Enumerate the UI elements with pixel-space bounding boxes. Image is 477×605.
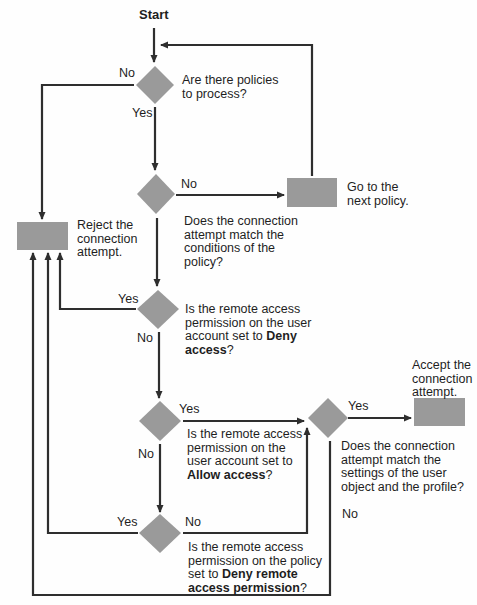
d4-yes-label: Yes bbox=[179, 403, 199, 417]
d5-question: Does the connection attempt match the se… bbox=[341, 440, 464, 494]
reject-label: Reject the connection attempt. bbox=[77, 219, 137, 260]
d1-yes-label: Yes bbox=[132, 107, 152, 121]
d1-no-label: No bbox=[119, 67, 135, 81]
start-label: Start bbox=[139, 8, 169, 22]
d6-no-label: No bbox=[185, 516, 201, 530]
decision-diamond-deny-policy bbox=[139, 514, 181, 553]
d5-no-label: No bbox=[342, 508, 358, 522]
action-box-reject bbox=[17, 222, 68, 250]
action-box-accept bbox=[414, 398, 465, 426]
d2-question: Does the connection attempt match the co… bbox=[184, 215, 298, 269]
d4-no-label: No bbox=[138, 448, 154, 462]
decision-diamond-deny-user bbox=[137, 290, 179, 329]
accept-label: Accept the connection attempt. bbox=[412, 359, 472, 400]
d5-yes-label: Yes bbox=[348, 400, 368, 414]
d6-yes-label: Yes bbox=[117, 516, 137, 530]
d3-no-label: No bbox=[137, 332, 153, 346]
d6-question: Is the remote access permission on the p… bbox=[188, 541, 322, 595]
flowchart-canvas: Start No Yes Are there policies to proce… bbox=[0, 0, 477, 605]
d1-question: Are there policies to process? bbox=[182, 74, 279, 101]
d4-question: Is the remote access permission on the u… bbox=[187, 428, 302, 482]
d3-question: Is the remote access permission on the u… bbox=[185, 303, 311, 357]
next-policy-label: Go to the next policy. bbox=[347, 181, 409, 208]
decision-diamond-settings bbox=[308, 398, 348, 438]
decision-diamond-allow-user bbox=[139, 401, 181, 441]
action-box-next-policy bbox=[287, 178, 337, 207]
decision-diamond-policies bbox=[136, 66, 174, 104]
decision-diamond-conditions bbox=[137, 174, 175, 214]
d3-yes-label: Yes bbox=[118, 293, 138, 307]
d2-no-label: No bbox=[181, 178, 197, 192]
